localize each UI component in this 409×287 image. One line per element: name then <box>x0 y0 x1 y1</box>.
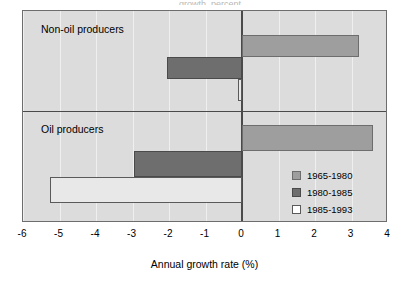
x-tick-label: 4 <box>375 228 399 239</box>
legend-item-label: 1985-1993 <box>307 204 352 215</box>
legend-swatch-icon <box>292 205 301 214</box>
bar-1965-1980-oil <box>242 125 373 151</box>
x-tick-label: 2 <box>302 228 326 239</box>
bar-1980-1985-non-oil <box>167 57 242 79</box>
x-axis-title: Annual growth rate (%) <box>0 258 409 270</box>
panel-label-non-oil-producers: Non-oil producers <box>41 23 124 35</box>
x-tick-label: 0 <box>229 228 253 239</box>
bar-1965-1980-non-oil <box>242 35 359 57</box>
legend-item-1965-1980: 1965-1980 <box>292 170 352 181</box>
legend-item-1985-1993: 1985-1993 <box>292 204 352 215</box>
panel-divider <box>23 111 386 112</box>
x-tick-label: -6 <box>10 228 34 239</box>
legend-item-1980-1985: 1980-1985 <box>292 187 352 198</box>
legend-item-label: 1965-1980 <box>307 170 352 181</box>
legend-item-label: 1980-1985 <box>307 187 352 198</box>
x-tick-label: -4 <box>83 228 107 239</box>
chart-legend: 1965-1980 1980-1985 1985-1993 <box>292 170 352 215</box>
x-tick-label: -1 <box>193 228 217 239</box>
gridline <box>23 11 24 221</box>
bar-1985-1993-non-oil <box>238 79 242 101</box>
x-tick-label: 3 <box>339 228 363 239</box>
x-tick-label: -5 <box>47 228 71 239</box>
chart-title-cropped: growth, percent <box>150 0 270 5</box>
x-tick-label: -3 <box>120 228 144 239</box>
legend-swatch-icon <box>292 171 301 180</box>
legend-swatch-icon <box>292 188 301 197</box>
bar-1985-1993-oil <box>50 177 242 203</box>
x-tick-label: 1 <box>266 228 290 239</box>
bar-1980-1985-oil <box>134 151 242 177</box>
x-tick-label: -2 <box>156 228 180 239</box>
chart-root: growth, percent Non-oil producersOil pro… <box>0 0 409 287</box>
panel-label-oil-producers: Oil producers <box>41 123 103 135</box>
